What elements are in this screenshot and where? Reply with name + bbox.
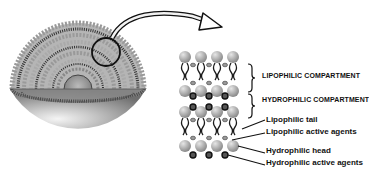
bilayer-detail (179, 51, 239, 158)
liposome-sphere (10, 23, 146, 155)
lipophilic-tail-label: Lipophilic tail (266, 115, 318, 124)
hydrophilic-compartment-label: HYDROPHILIC COMPARTMENT (262, 96, 369, 103)
lipophilic-active-agents-label: Lipophilic active agents (266, 127, 357, 136)
zoom-arrow (112, 13, 222, 38)
compartment-braces (248, 64, 255, 118)
hydrophilic-head-label: Hydrophilic head (266, 146, 331, 155)
hydrophilic-active-agents-label: Hydrophilic active agents (266, 158, 363, 167)
lipophilic-compartment-label: LIPOPHILIC COMPARTMENT (262, 72, 360, 79)
